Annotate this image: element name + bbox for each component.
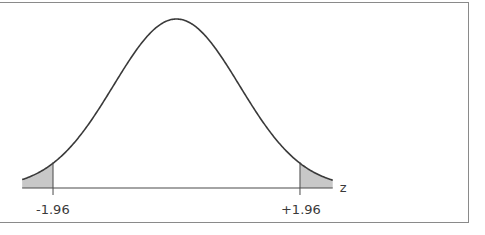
tick-label-right: +1.96 xyxy=(281,202,321,217)
rejection-regions xyxy=(22,163,333,188)
normal-curve xyxy=(22,19,333,180)
tick-label-left: -1.96 xyxy=(36,202,70,217)
x-axis-label: z xyxy=(340,180,347,195)
critical-value-ticks xyxy=(53,162,300,195)
normal-distribution-chart: -1.96 +1.96 z xyxy=(0,0,485,235)
